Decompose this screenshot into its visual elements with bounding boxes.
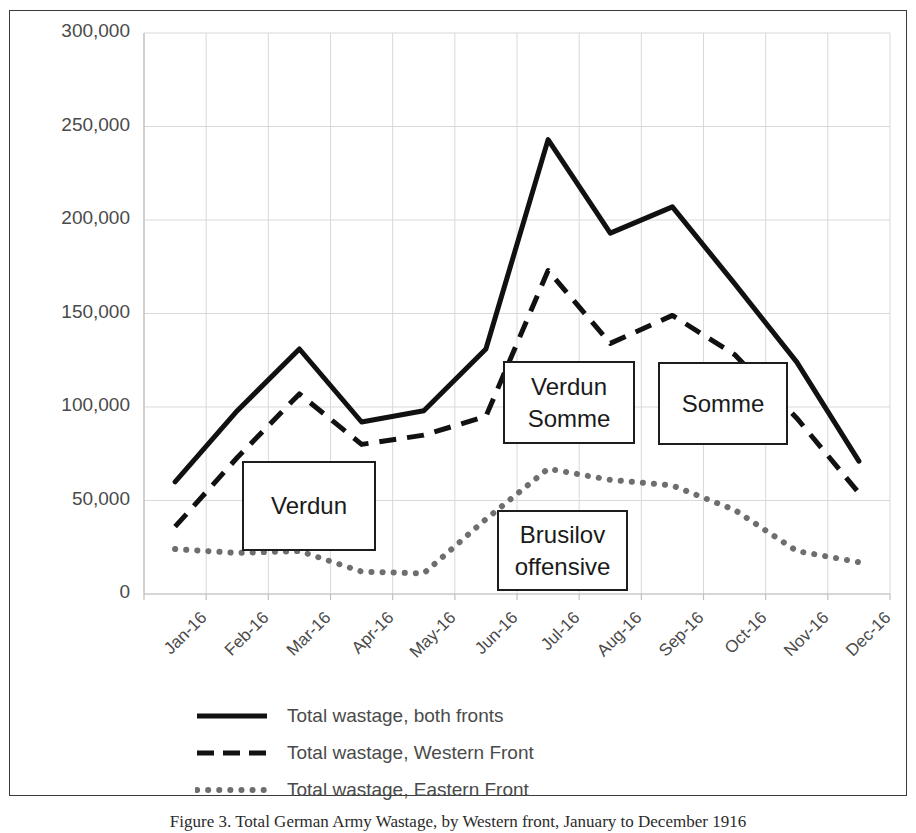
legend-item[interactable]: Total wastage, Eastern Front [195, 771, 665, 808]
legend-item[interactable]: Total wastage, both fronts [195, 697, 665, 734]
dashed-line-swatch [195, 744, 269, 762]
y-tick-label: 100,000 [61, 394, 130, 416]
annotation-line: Brusilov [520, 519, 605, 551]
legend-item-label: Total wastage, Western Front [287, 742, 534, 764]
annotation-line: Somme [682, 388, 765, 420]
annotation-brusilov: Brusilovoffensive [497, 510, 628, 591]
figure-caption: Figure 3. Total German Army Wastage, by … [0, 812, 916, 832]
legend-item[interactable]: Total wastage, Western Front [195, 734, 665, 771]
legend-item-label: Total wastage, Eastern Front [287, 779, 529, 801]
annotation-somme: Somme [658, 362, 788, 445]
y-tick-label: 250,000 [61, 114, 130, 136]
annotation-line: Somme [528, 403, 611, 435]
dotted-line-swatch [195, 781, 269, 799]
y-tick-label: 50,000 [72, 488, 130, 510]
chart-legend: Total wastage, both frontsTotal wastage,… [195, 697, 665, 808]
annotation-verdun: Verdun [242, 461, 376, 551]
y-tick-label: 200,000 [61, 207, 130, 229]
y-tick-label: 150,000 [61, 301, 130, 323]
solid-line-swatch [195, 707, 269, 725]
annotation-line: Verdun [271, 490, 347, 522]
annotation-line: Verdun [531, 371, 607, 403]
y-tick-label: 300,000 [61, 20, 130, 42]
annotation-verdun-somme: VerdunSomme [503, 361, 635, 444]
legend-item-label: Total wastage, both fronts [287, 705, 504, 727]
y-tick-label: 0 [119, 581, 130, 603]
annotation-line: offensive [515, 551, 611, 583]
